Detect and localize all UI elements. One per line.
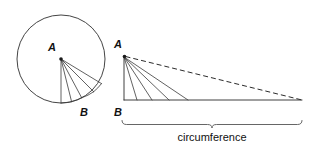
circle-arc-segment-2 [72,98,82,102]
triangle-diagram: A B [113,38,302,118]
circle-arc-segment-1 [61,102,72,103]
circle-center-dot [59,57,63,61]
circumference-caption: circumference [177,131,246,143]
figure-root: A B A B cir [0,0,322,150]
triangle-hypotenuse-dashed [126,57,303,101]
geometry-figure-svg: A B A B cir [0,0,322,150]
circle-center-label-a: A [47,41,56,53]
circle-radius-4 [61,59,94,92]
triangle-base-label-b: B [114,106,122,118]
circle-radius-2 [61,59,72,102]
triangle-apex-label-a: A [113,38,122,50]
brace-path [122,121,302,129]
circle-radii-group [61,59,102,103]
circle-diagram: A B [17,15,105,118]
triangle-radii-group [124,57,188,100]
triangle-radius-4 [124,57,188,100]
circle-arc-segment-3 [82,92,94,98]
triangle-radius-2 [124,57,152,100]
circle-point-label-b: B [80,106,88,118]
circumference-brace-group: circumference [122,121,302,144]
triangle-apex-dot [123,55,127,59]
circle-radius-5 [61,59,102,84]
